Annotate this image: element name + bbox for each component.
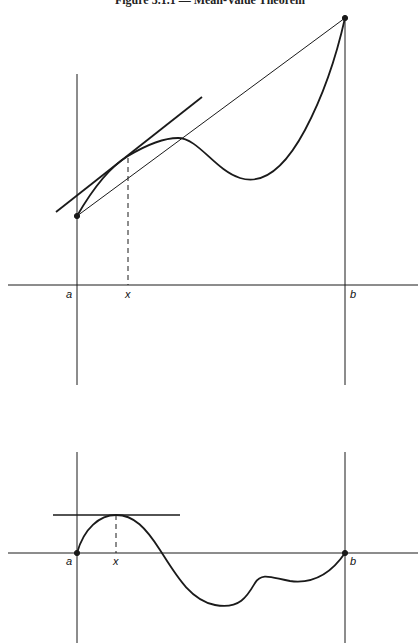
top-label-a: a	[66, 288, 72, 300]
top-endpoint-a-dot	[74, 213, 79, 218]
top-label-x: x	[124, 288, 131, 300]
figure-canvas: a x b a x b	[0, 0, 420, 643]
bottom-label-b: b	[350, 555, 356, 567]
top-endpoint-b-dot	[342, 15, 347, 20]
bottom-figure	[8, 452, 418, 643]
top-label-b: b	[350, 288, 356, 300]
bottom-label-x: x	[112, 555, 119, 567]
bottom-endpoint-b-dot	[342, 550, 347, 555]
top-figure	[8, 15, 418, 385]
bottom-endpoint-a-dot	[74, 550, 79, 555]
bottom-label-a: a	[66, 555, 72, 567]
secant-line	[77, 18, 345, 216]
